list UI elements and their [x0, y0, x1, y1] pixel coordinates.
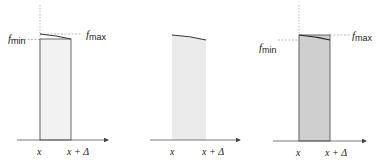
panel-upper-bound: fmax fmin x x + Δ [259, 5, 373, 158]
x-tick-label: x [295, 147, 301, 158]
x-delta-tick-label: x + Δ [66, 146, 89, 157]
fmax-label: fmax [352, 29, 373, 43]
upper-rectangle [299, 35, 330, 141]
fmax-label: fmax [86, 28, 107, 42]
area-under-curve [172, 35, 206, 140]
x-tick-label: x [169, 146, 175, 157]
x-tick-label: x [36, 146, 42, 157]
lower-rectangle [40, 39, 71, 140]
x-delta-tick-label: x + Δ [324, 147, 347, 158]
panel-lower-bound: fmax fmin x x + Δ [8, 5, 108, 157]
riemann-bounds-diagram: fmax fmin x x + Δ x x + Δ fmax fmin x x … [0, 0, 380, 166]
x-delta-tick-label: x + Δ [201, 146, 224, 157]
fmin-label: fmin [8, 32, 26, 46]
panel-exact-area: x x + Δ [150, 35, 240, 157]
function-curve [40, 34, 71, 39]
fmin-label: fmin [259, 41, 277, 55]
